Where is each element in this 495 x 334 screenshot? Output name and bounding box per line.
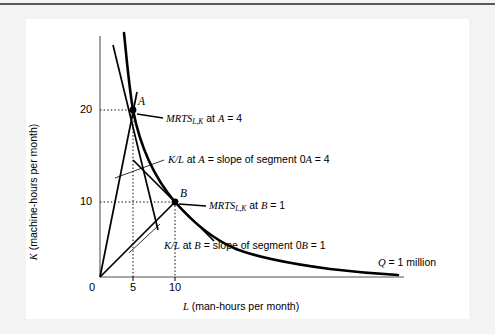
x-axis-title: L (man-hours per month) [183, 300, 299, 312]
kl-b-connector: at [180, 239, 195, 251]
xtick-label-10: 10 [169, 281, 181, 293]
kl-a-text: = slope of segment 0 [205, 153, 306, 165]
mrts-a-value: = 4 [224, 112, 242, 124]
isoquant-diagram [0, 0, 495, 334]
point-label-B: B [180, 187, 187, 199]
annotation-mrts-at-A: MRTSL,K at A = 4 [166, 112, 242, 124]
y-axis-symbol: K [28, 253, 39, 260]
annotation-isoquant-label: Q = 1 million [378, 256, 436, 268]
mrts-a-symbol: MRTS [166, 113, 192, 124]
mrts-b-value: = 1 [267, 199, 285, 211]
mrts-b-subscript: L,K [235, 204, 246, 213]
data-point-A [130, 107, 137, 114]
leader-line-mrts-B [179, 204, 206, 206]
y-axis-title: K (machine-hours per month) [27, 102, 39, 282]
annotation-kl-at-B: K/L at B = slope of segment 0B = 1 [164, 239, 326, 251]
mrts-b-connector: at [246, 199, 261, 211]
xtick-label-0: 0 [89, 281, 95, 293]
mrts-a-connector: at [203, 112, 218, 124]
kl-a-value: = 4 [312, 153, 330, 165]
x-axis-units: (man-hours per month) [189, 300, 299, 312]
mrts-a-subscript: L,K [192, 117, 203, 126]
leader-line-mrts-A [137, 114, 163, 118]
ytick-label-20: 20 [80, 103, 92, 115]
point-label-A: A [138, 95, 145, 107]
annotation-mrts-at-B: MRTSL,K at B = 1 [209, 199, 285, 211]
mrts-b-symbol: MRTS [209, 200, 235, 211]
kl-b-text: = slope of segment 0 [201, 239, 302, 251]
y-axis-units: (machine-hours per month) [27, 124, 39, 254]
data-point-B [172, 199, 179, 206]
annotation-kl-at-A: K/L at A = slope of segment 0A = 4 [168, 153, 330, 165]
kl-a-connector: at [184, 153, 199, 165]
xtick-label-5: 5 [130, 281, 136, 293]
tangent-line-at-A [113, 45, 158, 230]
kl-b-value: = 1 [308, 239, 326, 251]
leader-line-kl-B [129, 224, 160, 253]
kl-b-ratio: K/L [164, 240, 180, 251]
q-value: = 1 million [386, 256, 436, 268]
q-symbol: Q [378, 257, 386, 268]
ytick-label-10: 10 [80, 195, 92, 207]
kl-a-ratio: K/L [168, 154, 184, 165]
